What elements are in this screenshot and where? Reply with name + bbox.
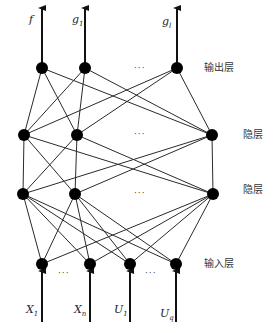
output-layer-label: 输出层: [204, 61, 234, 73]
connection-edge: [130, 194, 213, 264]
connection-edge: [75, 194, 130, 264]
output-layer-ellipsis: ···: [134, 63, 146, 73]
input-label-x1: X1: [25, 303, 38, 318]
output-node: [171, 62, 183, 74]
hidden1-node: [206, 129, 218, 141]
input-label-u1: U1: [114, 303, 128, 318]
input-layer-ellipsis-2: ···: [145, 268, 157, 278]
input-node: [170, 258, 182, 270]
input-node: [36, 258, 48, 270]
hidden-layer-1-ellipsis: ···: [134, 129, 146, 139]
input-node: [124, 258, 136, 270]
output-labels: f g1 gl: [28, 13, 171, 30]
input-labels: X1 Xn U1 Uq: [25, 303, 174, 322]
connection-edge: [42, 194, 213, 264]
input-label-uq: Uq: [160, 307, 174, 322]
neural-network-diagram: f g1 gl X1 Xn U1 Uq 输出层 隐层 隐层 输入层 ··· ··…: [0, 0, 274, 333]
connection-edge: [23, 135, 24, 194]
connection-edges: [23, 68, 213, 264]
input-label-xn: Xn: [73, 303, 87, 318]
connection-edge: [77, 68, 177, 135]
input-node: [84, 258, 96, 270]
hidden-layer-1-label: 隐层: [243, 129, 263, 140]
connection-edge: [77, 68, 85, 135]
connection-edge: [212, 135, 213, 194]
connection-edge: [75, 194, 176, 264]
output-label-g1: g1: [72, 13, 84, 28]
hidden-layer-2-label: 隐层: [243, 184, 263, 195]
output-label-gl: gl: [162, 15, 171, 30]
hidden2-node: [17, 188, 29, 200]
input-layer-label: 输入层: [204, 257, 234, 269]
hidden2-node: [207, 188, 219, 200]
output-node: [79, 62, 91, 74]
hidden1-node: [71, 129, 83, 141]
connection-edge: [177, 68, 212, 135]
hidden2-node: [69, 188, 81, 200]
connection-edge: [75, 135, 77, 194]
connection-edge: [23, 194, 176, 264]
connection-edge: [85, 68, 212, 135]
output-label-f: f: [28, 13, 35, 26]
input-layer-ellipsis-1: ···: [58, 268, 70, 278]
output-node: [36, 62, 48, 74]
connection-edge: [23, 194, 90, 264]
neuron-nodes: [17, 62, 219, 270]
hidden-layer-2-ellipsis: ···: [134, 188, 146, 198]
hidden1-node: [18, 129, 30, 141]
